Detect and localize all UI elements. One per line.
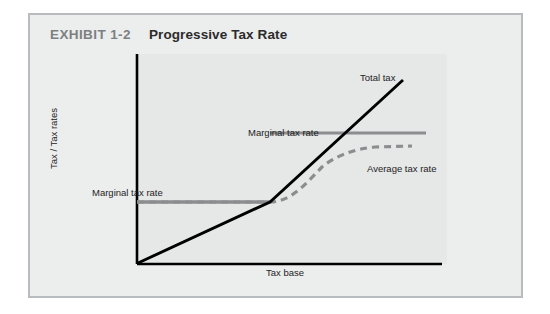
y-axis-label: Tax / Tax rates	[48, 84, 59, 194]
x-axis-label: Tax base	[235, 267, 335, 278]
plot-background	[137, 54, 447, 264]
exhibit-panel: EXHIBIT 1-2 Progressive Tax Rate	[28, 13, 523, 298]
screenshot-page: EXHIBIT 1-2 Progressive Tax Rate	[0, 0, 550, 314]
chart-plot-area: Tax / Tax rates Tax base Total tax Margi…	[30, 15, 525, 300]
average-tax-rate-annotation: Average tax rate	[367, 163, 437, 174]
tax-rate-line-chart	[30, 15, 525, 300]
total-tax-annotation: Total tax	[360, 72, 395, 83]
marginal-tax-rate-annotation-lower: Marginal tax rate	[92, 187, 163, 198]
marginal-tax-rate-annotation-upper: Marginal tax rate	[248, 127, 319, 138]
